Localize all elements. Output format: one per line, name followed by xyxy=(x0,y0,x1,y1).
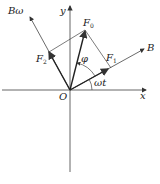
b-axis-label: B xyxy=(146,42,154,53)
diagram-canvas: x y O B Bω F0 F1 F2 φ ωt xyxy=(0,0,160,184)
phi-label: φ xyxy=(81,53,88,64)
projection-line-f2 xyxy=(49,30,85,52)
y-axis-label: y xyxy=(59,5,66,16)
f1-label: F1 xyxy=(105,52,117,64)
x-axis-label: x xyxy=(140,90,146,101)
origin-label: O xyxy=(59,91,67,102)
omegat-label: ωt xyxy=(94,77,107,88)
phi-arc xyxy=(77,63,95,76)
bomega-axis-label: Bω xyxy=(7,5,24,16)
f2-label: F2 xyxy=(35,53,47,65)
f2-vector xyxy=(49,52,70,90)
omegat-arc xyxy=(89,79,92,90)
f0-label: F0 xyxy=(82,17,94,29)
